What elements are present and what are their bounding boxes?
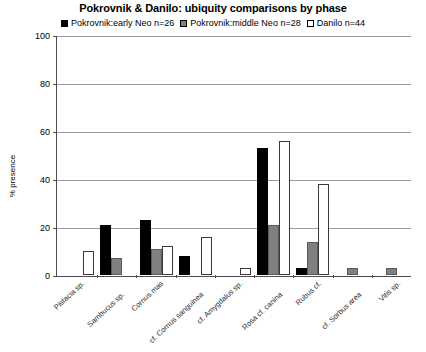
- y-axis-tick: [53, 180, 57, 181]
- y-axis-title: % presence: [8, 136, 17, 216]
- legend-item: Pokrovnik:early Neo n=26: [61, 19, 174, 28]
- bar-group: [97, 36, 136, 275]
- legend-item-label: Danilo n=44: [317, 19, 365, 28]
- bar: [268, 225, 279, 275]
- y-axis-tick-label: 80: [40, 79, 50, 89]
- bar: [151, 249, 162, 275]
- legend-swatch-icon: [307, 20, 314, 27]
- bar-chart: Pokrovnik & Danilo: ubiquity comparisons…: [0, 0, 426, 352]
- bar-group: [58, 36, 97, 275]
- y-axis-tick: [53, 84, 57, 85]
- bar-groups: [58, 36, 411, 275]
- bar-group: [372, 36, 411, 275]
- x-axis-label: cf. Amygdalus sp.: [195, 279, 244, 326]
- bar: [162, 246, 173, 275]
- bar: [279, 141, 290, 275]
- y-axis-tick-label: 40: [40, 175, 50, 185]
- x-axis-tick: [97, 275, 98, 278]
- x-axis-label: Sambucus sp.: [85, 290, 126, 329]
- legend-item: Pokrovnik:middle Neo n=28: [180, 19, 300, 28]
- plot-area: 100806040200: [56, 36, 411, 277]
- bar: [201, 237, 212, 275]
- bar-group: [136, 36, 175, 275]
- bar: [240, 268, 251, 275]
- x-axis-label: cf. Sorbus area: [319, 290, 362, 331]
- x-axis-label: Pistacia sp.: [52, 279, 86, 312]
- legend-item-label: Pokrovnik:middle Neo n=28: [190, 19, 300, 28]
- bar-group: [215, 36, 254, 275]
- bar: [296, 268, 307, 275]
- x-axis-tick: [372, 275, 373, 278]
- bar-group: [254, 36, 293, 275]
- chart-legend: Pokrovnik:early Neo n=26Pokrovnik:middle…: [0, 19, 426, 28]
- y-axis-tick-label: 100: [35, 31, 50, 41]
- bar: [111, 258, 122, 275]
- chart-title: Pokrovnik & Danilo: ubiquity comparisons…: [0, 2, 426, 14]
- y-axis-tick: [53, 132, 57, 133]
- legend-item-label: Pokrovnik:early Neo n=26: [71, 19, 174, 28]
- bar: [318, 184, 329, 275]
- legend-item: Danilo n=44: [307, 19, 365, 28]
- x-axis-tick: [215, 275, 216, 278]
- bar-group: [293, 36, 332, 275]
- x-axis-tick: [176, 275, 177, 278]
- bar: [347, 268, 358, 275]
- x-axis-label: Vitis sp.: [377, 279, 402, 303]
- x-axis-label: Rosa cf. canina: [240, 290, 284, 332]
- bar: [140, 220, 151, 275]
- x-axis-label: Cornus mas: [130, 279, 166, 313]
- legend-swatch-icon: [61, 20, 68, 27]
- bar: [179, 256, 190, 275]
- x-axis-tick: [293, 275, 294, 278]
- x-axis-labels: Pistacia sp.Sambucus sp.Cornus mascf. Co…: [56, 279, 411, 352]
- y-axis-tick-label: 20: [40, 223, 50, 233]
- bar: [386, 268, 397, 275]
- x-axis-tick: [254, 275, 255, 278]
- x-axis-tick: [136, 275, 137, 278]
- legend-swatch-icon: [180, 20, 187, 27]
- y-axis-tick: [53, 276, 57, 277]
- y-axis-tick: [53, 36, 57, 37]
- bar: [307, 242, 318, 275]
- bar-group: [176, 36, 215, 275]
- bar: [257, 148, 268, 275]
- y-axis-tick: [53, 228, 57, 229]
- x-axis-tick: [333, 275, 334, 278]
- bar: [83, 251, 94, 275]
- y-axis-tick-label: 60: [40, 127, 50, 137]
- x-axis-label: Rubus cf.: [294, 279, 323, 307]
- y-axis-tick-label: 0: [45, 271, 50, 281]
- bar: [100, 225, 111, 275]
- bar-group: [333, 36, 372, 275]
